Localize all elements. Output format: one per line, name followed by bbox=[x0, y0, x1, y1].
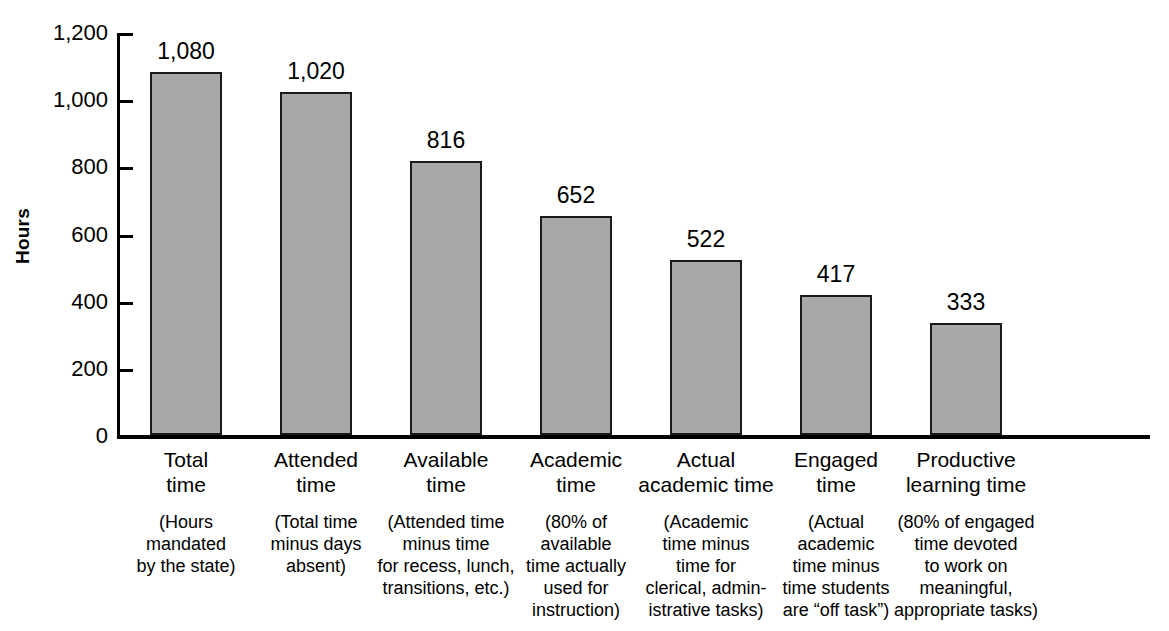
bar-value-label: 652 bbox=[506, 184, 646, 207]
bar bbox=[540, 216, 612, 435]
x-category-note: (80% of engaged time devoted to work on … bbox=[882, 511, 1050, 621]
bar bbox=[800, 295, 872, 435]
x-category-title: Productive learning time bbox=[882, 447, 1050, 497]
bar-chart: Hours 02004006008001,0001,200 1,0801,020… bbox=[0, 0, 1169, 631]
bar-value-label: 333 bbox=[896, 291, 1036, 314]
bar-value-label: 816 bbox=[376, 129, 516, 152]
bar bbox=[150, 72, 222, 435]
bar bbox=[410, 161, 482, 435]
bar-value-label: 417 bbox=[766, 263, 906, 286]
bar-value-label: 522 bbox=[636, 228, 776, 251]
bar bbox=[670, 260, 742, 435]
bar bbox=[280, 92, 352, 435]
bar-value-label: 1,080 bbox=[116, 40, 256, 63]
bar-value-label: 1,020 bbox=[246, 60, 386, 83]
x-category-label: Productive learning time(80% of engaged … bbox=[882, 447, 1050, 621]
bar bbox=[930, 323, 1002, 435]
